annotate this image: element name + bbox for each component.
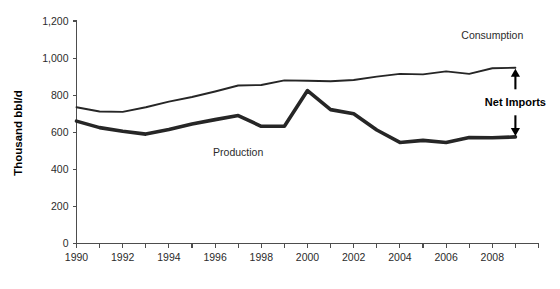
y-tick-label: 1,200	[42, 15, 68, 27]
x-tick-label: 2004	[388, 251, 412, 263]
y-tick-label: 600	[51, 126, 69, 138]
chart-background	[0, 0, 560, 289]
y-tick-label: 400	[51, 163, 69, 175]
x-tick-label: 1992	[111, 251, 135, 263]
x-tick-label: 1990	[65, 251, 89, 263]
series-label-consumption: Consumption	[461, 29, 523, 41]
y-tick-label: 200	[51, 200, 69, 212]
series-label-production: Production	[213, 146, 263, 158]
x-tick-label: 1996	[203, 251, 227, 263]
line-chart: 02004006008001,0001,200 1990199219941996…	[0, 0, 560, 289]
x-axis-ticks	[77, 244, 539, 248]
net-imports-label: Net Imports	[485, 96, 546, 108]
y-axis-title: Thousand bbl/d	[12, 90, 24, 176]
x-tick-label: 1998	[250, 251, 274, 263]
y-tick-label: 0	[63, 237, 69, 249]
y-tick-label: 1,000	[42, 52, 68, 64]
x-tick-label: 2008	[481, 251, 505, 263]
x-tick-label: 2006	[434, 251, 458, 263]
chart-figure: 02004006008001,0001,200 1990199219941996…	[0, 0, 560, 289]
x-tick-label: 2002	[342, 251, 366, 263]
x-tick-label: 1994	[157, 251, 181, 263]
y-tick-label: 800	[51, 89, 69, 101]
x-tick-label: 2000	[296, 251, 320, 263]
